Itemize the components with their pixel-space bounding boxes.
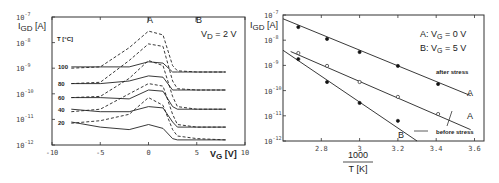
right-x-tick: 3.6 [468, 145, 481, 153]
data-point [325, 37, 328, 40]
temperature-label: 80 [58, 81, 65, 87]
dashed-curve [71, 98, 225, 140]
dashed-curve [71, 61, 225, 110]
data-point [358, 101, 361, 104]
figure: 10-710-810-910-1010-1110-12 -10-50510 10… [0, 0, 499, 183]
right-x-tick: 2.8 [315, 145, 328, 153]
left-x-tick: -10 [46, 149, 59, 157]
vd-annotation: VD = 2 V [201, 29, 237, 41]
temperature-labels: 10080604020 [58, 64, 69, 126]
left-y-axis-label: IGD [A] [18, 21, 46, 33]
right-y-tick: 10-8 [264, 34, 278, 45]
legend-a: A: VG = 0 V [420, 29, 466, 40]
left-y-tick: 10-11 [16, 113, 33, 124]
right-chart: 10-710-810-910-1010-1110-12 2.833.23.43.… [250, 9, 484, 174]
data-point [297, 51, 300, 54]
right-y-axis-label: IGD [A] [250, 20, 278, 32]
data-point [297, 58, 300, 61]
left-chart: 10-710-810-910-1010-1110-12 -10-50510 10… [16, 11, 249, 161]
data-point [437, 82, 440, 85]
left-x-tick: 10 [241, 149, 249, 157]
line-label-a-after: A [467, 88, 473, 98]
solid-curve [71, 107, 225, 128]
right-y-tick: 10-12 [264, 135, 281, 146]
right-y-tick: 10-7 [264, 9, 278, 20]
data-point [396, 95, 399, 98]
after-stress-label: after stress [436, 69, 469, 75]
legend-b: B: VG = 5 V [420, 43, 466, 54]
left-x-tick: -5 [96, 149, 104, 157]
right-y-tick: 10-10 [264, 85, 281, 96]
data-point [396, 64, 399, 67]
data-point [325, 80, 328, 83]
data-point [297, 25, 300, 28]
temperature-label: 20 [58, 120, 65, 126]
solid-curve [71, 122, 225, 140]
right-x-tick: 3.2 [392, 145, 405, 153]
left-x-tick: 0 [146, 149, 150, 157]
line-label-b: B [398, 130, 404, 140]
before-stress-label: before stress [436, 129, 474, 135]
right-x-axis-denominator: T [K] [349, 164, 368, 174]
left-y-tick: 10-9 [16, 62, 30, 73]
line-label-a-before: A [467, 111, 473, 121]
left-y-tick: 10-10 [16, 88, 33, 99]
data-point [396, 119, 399, 122]
temperature-label: 60 [58, 95, 65, 101]
left-y-tick: 10-12 [16, 139, 33, 150]
left-y-tick: 10-8 [16, 37, 30, 48]
temperature-header: T [°C] [57, 36, 73, 42]
data-point [358, 50, 361, 53]
left-curves [71, 31, 225, 140]
right-y-tick: 10-11 [264, 110, 281, 121]
marker-b-label: B [196, 15, 202, 25]
data-point [437, 112, 440, 115]
data-point [358, 80, 361, 83]
fit-line [291, 52, 471, 130]
solid-curve [71, 62, 225, 72]
left-x-axis-label: VG [V] [210, 149, 237, 161]
solid-curve [71, 76, 225, 90]
right-y-tick: 10-9 [264, 59, 278, 70]
right-x-axis-numerator: 1000 [348, 150, 368, 160]
right-x-tick: 3.4 [430, 145, 443, 153]
left-x-tick: 5 [195, 149, 199, 157]
data-point [325, 64, 328, 67]
temperature-label: 100 [58, 64, 69, 70]
temperature-label: 40 [58, 107, 65, 113]
